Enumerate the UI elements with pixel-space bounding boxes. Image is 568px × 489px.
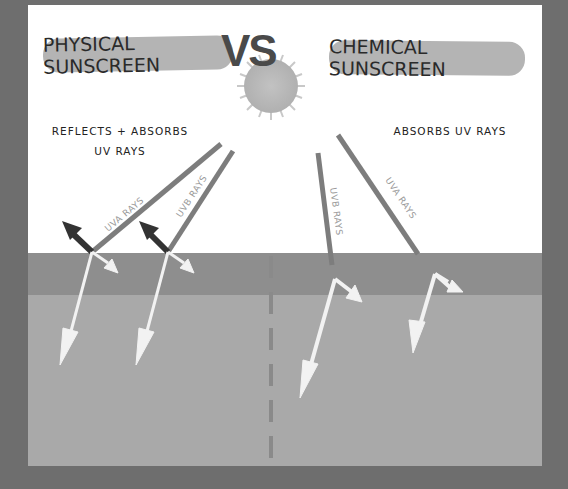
physical-note: REFLECTS + ABSORBS UV RAYS [50,121,190,161]
chemical-uvb-label: UVB RAYS [328,187,345,236]
physical-note-line1: REFLECTS + ABSORBS [50,121,190,141]
physical-note-line2: UV RAYS [50,141,190,161]
vs-label: VS [221,26,276,76]
absorb-arrow-icon [136,252,194,365]
reflect-arrow-icon [62,221,92,252]
chemical-note: ABSORBS UV RAYS [390,121,510,141]
absorb-arrow-icon [60,252,118,365]
physical-sunscreen-label: PHYSICAL SUNSCREEN [43,35,234,72]
chemical-sunscreen-label: CHEMICAL SUNSCREEN [329,40,525,76]
reflect-arrow-icon [139,221,168,252]
physical-uvb-ray [168,151,233,252]
absorb-arrow-icon [300,279,362,398]
absorb-arrow-icon [409,274,463,353]
chemical-uvb-ray [318,153,332,265]
chemical-uva-ray [338,135,418,254]
